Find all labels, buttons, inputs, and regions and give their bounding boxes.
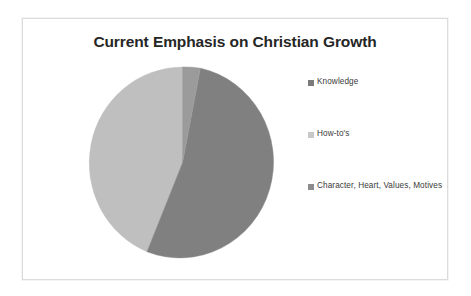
chart-legend: Knowledge How-to's Character, Heart, Val… <box>308 77 448 191</box>
legend-item-how-tos[interactable]: How-to's <box>308 129 448 140</box>
chart-card: Current Emphasis on Christian Growth Kno… <box>22 18 448 280</box>
legend-item-label: Knowledge <box>317 77 358 88</box>
plot-area <box>66 47 276 262</box>
legend-swatch-icon <box>308 132 314 138</box>
legend-item-label: How-to's <box>317 129 349 140</box>
legend-item-character-heart-values-motives[interactable]: Character, Heart, Values, Motives <box>308 181 448 192</box>
legend-item-knowledge[interactable]: Knowledge <box>308 77 448 88</box>
legend-swatch-icon <box>308 80 314 86</box>
screenshot-root: Current Emphasis on Christian Growth Kno… <box>0 0 471 296</box>
legend-swatch-icon <box>308 184 314 190</box>
legend-item-label: Character, Heart, Values, Motives <box>317 181 442 192</box>
pie-chart <box>88 66 277 260</box>
pie-chart-svg <box>88 66 277 260</box>
